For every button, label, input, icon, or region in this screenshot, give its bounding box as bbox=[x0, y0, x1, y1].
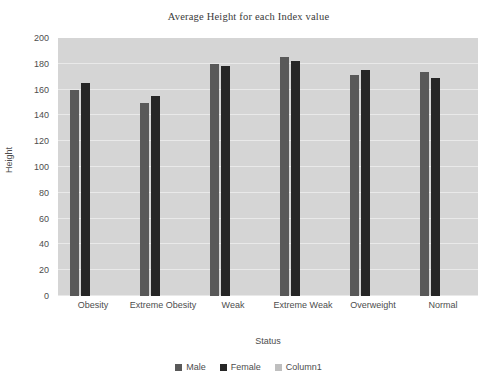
x-axis: ObesityExtreme ObesityWeakExtreme WeakOv… bbox=[58, 300, 478, 334]
y-axis-tick-label: 140 bbox=[0, 110, 53, 120]
legend-item-female[interactable]: Female bbox=[220, 362, 261, 372]
x-axis-tick-label: Normal bbox=[408, 300, 478, 312]
bar-male-extreme-obesity[interactable] bbox=[140, 103, 149, 297]
legend-swatch-icon bbox=[220, 364, 227, 371]
plot-area bbox=[58, 38, 478, 296]
x-axis-tick-label: Weak bbox=[198, 300, 268, 312]
x-axis-tick-label: Overweight bbox=[338, 300, 408, 312]
bar-female-weak[interactable] bbox=[221, 66, 230, 296]
legend-label: Column1 bbox=[286, 362, 322, 372]
bar-group bbox=[128, 38, 198, 296]
y-axis-tick-label: 180 bbox=[0, 59, 53, 69]
bar-male-weak[interactable] bbox=[210, 64, 219, 296]
bar-female-normal[interactable] bbox=[431, 78, 440, 296]
bar-female-obesity[interactable] bbox=[81, 83, 90, 296]
bar-female-overweight[interactable] bbox=[361, 70, 370, 296]
bar-group bbox=[268, 38, 338, 296]
bar-male-overweight[interactable] bbox=[350, 75, 359, 296]
legend-label: Female bbox=[231, 362, 261, 372]
x-axis-tick-label: Extreme Obesity bbox=[128, 300, 198, 312]
y-axis-tick-label: 60 bbox=[0, 214, 53, 224]
legend-item-column1[interactable]: Column1 bbox=[275, 362, 322, 372]
bar-female-extreme-obesity[interactable] bbox=[151, 96, 160, 296]
bar-group bbox=[408, 38, 478, 296]
y-axis-tick-label: 40 bbox=[0, 239, 53, 249]
chart-container: Average Height for each Index value 0204… bbox=[0, 0, 497, 390]
bar-group bbox=[58, 38, 128, 296]
y-axis-tick-label: 200 bbox=[0, 33, 53, 43]
chart-title: Average Height for each Index value bbox=[0, 11, 497, 22]
bar-male-normal[interactable] bbox=[420, 72, 429, 296]
x-axis-tick-label: Extreme Weak bbox=[268, 300, 338, 312]
x-axis-title: Status bbox=[58, 336, 478, 346]
legend-swatch-icon bbox=[175, 364, 182, 371]
legend-swatch-icon bbox=[275, 364, 282, 371]
bar-male-extreme-weak[interactable] bbox=[280, 57, 289, 296]
legend-item-male[interactable]: Male bbox=[175, 362, 206, 372]
bar-female-extreme-weak[interactable] bbox=[291, 61, 300, 296]
x-axis-tick-label: Obesity bbox=[58, 300, 128, 312]
bar-group bbox=[338, 38, 408, 296]
y-axis-tick-label: 20 bbox=[0, 265, 53, 275]
bar-group bbox=[198, 38, 268, 296]
legend-label: Male bbox=[186, 362, 206, 372]
bar-male-obesity[interactable] bbox=[70, 90, 79, 296]
chart-legend: MaleFemaleColumn1 bbox=[0, 362, 497, 372]
y-axis-title: Height bbox=[4, 120, 14, 200]
y-axis-tick-label: 160 bbox=[0, 85, 53, 95]
y-axis-tick-label: 0 bbox=[0, 291, 53, 301]
